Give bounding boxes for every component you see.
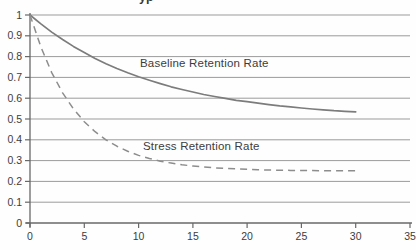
y-tick-label: 1 [16,9,22,21]
y-tick-label: 0.5 [7,113,22,125]
x-tick-label: 20 [241,230,253,242]
x-tick-label: 10 [133,230,145,242]
y-tick-label: 0.1 [7,196,22,208]
stress-series-label: Stress Retention Rate [143,140,260,152]
y-tick-label: 0.7 [7,71,22,83]
baseline-series-label: Baseline Retention Rate [140,57,269,69]
x-tick-label: 15 [187,230,199,242]
y-tick-label: 0.2 [7,175,22,187]
x-tick-label: 25 [296,230,308,242]
x-tick-label: 30 [350,230,362,242]
y-tick-label: 0 [16,217,22,229]
retention-chart-figure: yp 00.10.20.30.40.50.60.70.80.9105101520… [0,0,416,250]
x-tick-label: 5 [81,230,87,242]
y-tick-label: 0.4 [7,133,22,145]
retention-chart-plot: 00.10.20.30.40.50.60.70.80.9105101520253… [0,0,416,250]
y-tick-label: 0.3 [7,154,22,166]
x-tick-label: 35 [404,230,416,242]
y-tick-label: 0.9 [7,29,22,41]
x-tick-label: 0 [27,230,33,242]
y-tick-label: 0.8 [7,50,22,62]
y-tick-label: 0.6 [7,92,22,104]
